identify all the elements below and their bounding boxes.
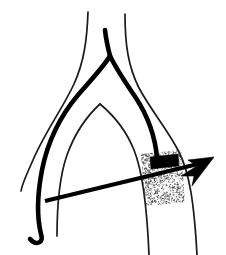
background-rect (0, 0, 226, 255)
figure-canvas (0, 0, 226, 255)
vessel-bifurcation-diagram (0, 0, 226, 255)
